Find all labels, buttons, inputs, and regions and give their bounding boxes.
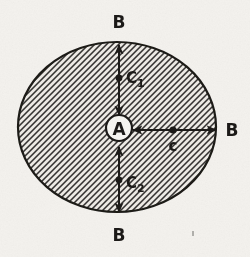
figure-canvas: A C1C2c BBB	[0, 0, 250, 257]
technical-figure: A C1C2c BBB	[0, 0, 250, 257]
paper-grain-overlay	[0, 0, 250, 257]
